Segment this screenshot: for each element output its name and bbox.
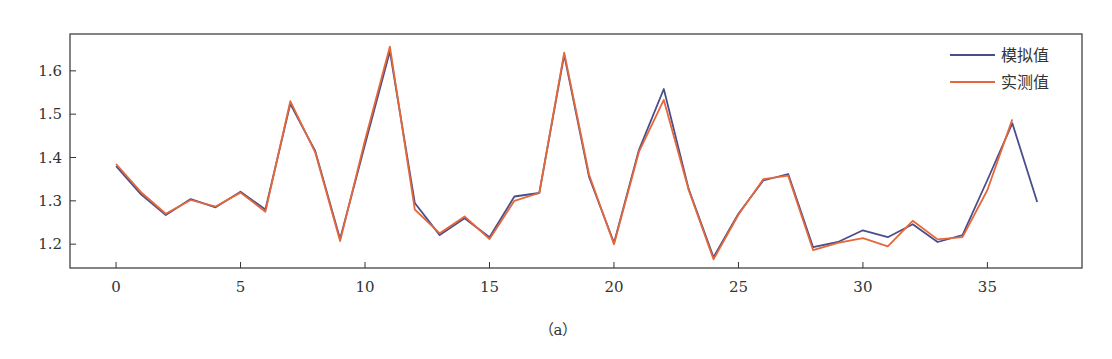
plot-area: 1.21.31.41.51.6 05101520253035 [38, 34, 1082, 296]
legend-item-measured: 实测值 [950, 73, 1049, 92]
figure-caption: （a） [530, 318, 586, 339]
series-lines [116, 47, 1037, 260]
y-tick-label: 1.2 [38, 235, 62, 253]
y-tick-label: 1.6 [38, 62, 62, 80]
legend: 模拟值 实测值 [950, 46, 1049, 92]
x-tick-label: 5 [236, 278, 246, 296]
x-tick-label: 0 [111, 278, 121, 296]
legend-label-measured: 实测值 [1001, 73, 1049, 92]
x-tick-label: 25 [729, 278, 748, 296]
y-tick-label: 1.4 [38, 149, 62, 167]
x-tick-label: 35 [978, 278, 997, 296]
y-tick-label: 1.3 [38, 192, 62, 210]
series-line-simulated [116, 51, 1037, 257]
x-tick-label: 15 [480, 278, 499, 296]
line-chart: 1.21.31.41.51.6 05101520253035 模拟值 实测值 [0, 0, 1112, 359]
series-line-measured [116, 47, 1012, 260]
legend-label-simulated: 模拟值 [1001, 46, 1049, 65]
x-axis: 05101520253035 [111, 262, 997, 296]
x-tick-label: 10 [355, 278, 374, 296]
y-tick-label: 1.5 [38, 105, 62, 123]
legend-item-simulated: 模拟值 [950, 46, 1049, 65]
x-tick-label: 30 [853, 278, 872, 296]
x-tick-label: 20 [604, 278, 623, 296]
